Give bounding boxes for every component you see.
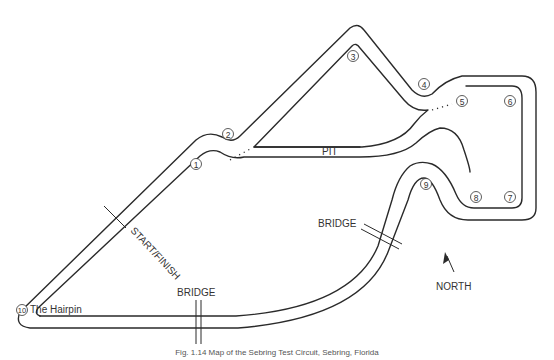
svg-text:3: 3 bbox=[351, 52, 356, 62]
svg-text:8: 8 bbox=[474, 193, 479, 203]
svg-text:9: 9 bbox=[424, 180, 429, 190]
label-bridge-right: BRIDGE bbox=[318, 218, 357, 229]
label-north: NORTH bbox=[436, 281, 471, 292]
turn-marker-1: 1 bbox=[191, 159, 202, 170]
svg-text:5: 5 bbox=[460, 97, 465, 107]
figure-caption: Fig. 1.14 Map of the Sebring Test Circui… bbox=[0, 348, 554, 357]
svg-text:10: 10 bbox=[18, 306, 26, 315]
circuit-map: PIT START/FINISH BRIDGE BRIDGE The Hairp… bbox=[0, 0, 554, 360]
svg-text:1: 1 bbox=[194, 160, 199, 170]
turn-marker-5: 5 bbox=[457, 96, 468, 107]
svg-text:6: 6 bbox=[508, 97, 513, 107]
label-bridge-bottom: BRIDGE bbox=[177, 287, 216, 298]
label-pit: PIT bbox=[322, 146, 338, 157]
svg-text:2: 2 bbox=[226, 130, 231, 140]
turn-marker-8: 8 bbox=[471, 192, 482, 203]
turn-marker-7: 7 bbox=[505, 192, 516, 203]
turn-marker-2: 2 bbox=[223, 129, 234, 140]
label-hairpin: The Hairpin bbox=[30, 304, 82, 315]
turn-marker-10: 10 bbox=[17, 305, 28, 316]
svg-text:4: 4 bbox=[422, 80, 427, 90]
svg-text:7: 7 bbox=[508, 193, 513, 203]
turn-marker-4: 4 bbox=[419, 79, 430, 90]
pit-exit-dotted bbox=[432, 104, 452, 110]
turn-marker-3: 3 bbox=[348, 51, 359, 62]
turn-marker-6: 6 bbox=[505, 96, 516, 107]
track-inner-edge bbox=[36, 128, 470, 316]
label-start-finish: START/FINISH bbox=[129, 225, 183, 282]
start-finish-line bbox=[104, 206, 126, 228]
turn-marker-9: 9 bbox=[421, 179, 432, 190]
